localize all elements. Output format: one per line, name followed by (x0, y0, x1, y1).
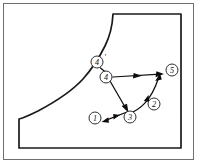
station-label-4-prime: 4 ' (91, 53, 107, 68)
arrow-4-to-5-midhead (133, 73, 142, 79)
arrow-4-to-3-shaft (110, 81, 126, 109)
curved-body-outline (19, 14, 181, 148)
station-label-3: 3 (124, 111, 136, 123)
station-label-5: 5 (166, 64, 178, 76)
station-label-1: 1 (89, 112, 101, 124)
station-4-text: 4 (104, 73, 108, 82)
technical-diagram-canvas: 1 2 3 4 4 ' 5 (0, 0, 197, 163)
figure-frame-border (4, 4, 194, 160)
station-1-text: 1 (93, 114, 97, 123)
station-4-prime-mark: ' (105, 53, 107, 62)
station-5-text: 5 (170, 66, 174, 75)
station-2-text: 2 (152, 100, 156, 109)
station-3-text: 3 (127, 113, 132, 122)
arrow-4-to-3 (110, 81, 129, 113)
station-label-4: 4 (100, 71, 112, 83)
arrow-3-to-1 (102, 112, 128, 123)
arrow-3-to-1-head (102, 117, 110, 123)
arrow-4-to-5 (113, 71, 164, 78)
station-label-2: 2 (148, 98, 160, 110)
figure-container: 1 2 3 4 4 ' 5 (0, 0, 197, 163)
station-4-prime-text: 4 (95, 58, 99, 67)
